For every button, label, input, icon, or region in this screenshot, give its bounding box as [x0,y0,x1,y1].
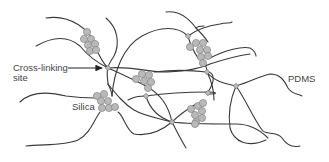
silica-cluster-4 [93,90,118,111]
cross-linking-label-line2: site [13,73,68,83]
cross-linking-site-label: Cross-linking site [13,63,68,83]
silica-cluster-2 [186,39,211,66]
silica-cluster-1 [80,28,99,54]
cross-linking-sites [105,33,239,125]
pdms-label: PDMS [288,74,315,84]
silica-label: Silica [72,102,95,112]
silica-cluster-3 [132,70,154,91]
